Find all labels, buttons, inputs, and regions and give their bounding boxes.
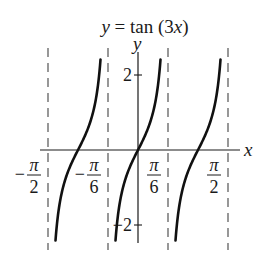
svg-text:π: π [29,155,39,175]
svg-text:−: − [15,164,25,184]
svg-text:π: π [149,155,159,175]
x-tick-label: −π6 [75,155,101,197]
x-tick-label: −π2 [15,155,41,197]
x-tick-label: π6 [147,155,161,197]
tan-graph: y = tan (3x) x y 2−2 −π2−π6π6π2 [0,0,268,257]
chart-title: y = tan (3x) [99,16,188,38]
svg-text:π: π [89,155,99,175]
svg-text:6: 6 [89,177,98,197]
x-axis-label: x [243,139,253,160]
svg-text:2: 2 [29,177,38,197]
svg-text:2: 2 [210,177,219,197]
svg-text:6: 6 [150,177,159,197]
y-tick-label: 2 [123,65,132,85]
y-axis-label: y [131,33,142,54]
x-ticks: −π2−π6π6π2 [15,155,221,197]
svg-text:−: − [75,164,85,184]
svg-text:π: π [209,155,219,175]
x-tick-label: π2 [207,155,221,197]
